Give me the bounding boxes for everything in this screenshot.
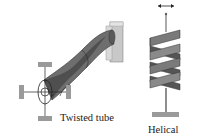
- pad-bottom: [38, 116, 52, 121]
- double-arrow-icon: [158, 4, 174, 8]
- helical-figure: [150, 4, 180, 117]
- helical-label: Helical: [148, 124, 178, 135]
- twisted-tube-figure: [19, 22, 123, 121]
- helical-band: [150, 30, 180, 90]
- twisted-tube-label: Twisted tube: [60, 112, 114, 123]
- pad-left: [19, 85, 24, 99]
- top-rod: [165, 13, 167, 32]
- pad-top: [38, 62, 52, 67]
- base-plate: [152, 112, 179, 117]
- twisted-tube: [44, 30, 115, 100]
- pad-right: [66, 85, 71, 99]
